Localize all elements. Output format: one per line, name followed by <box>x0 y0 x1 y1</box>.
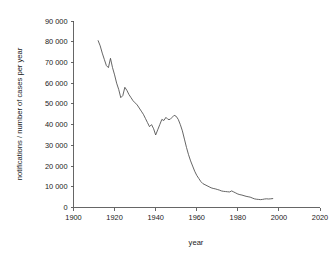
x-tick-label: 1920 <box>106 213 122 222</box>
line-chart: 010 00020 00030 00040 00050 00060 00070 … <box>0 0 333 259</box>
y-axis-ticks: 010 00020 00030 00040 00050 00060 00070 … <box>45 17 74 213</box>
y-tick-label: 0 <box>63 203 67 212</box>
x-tick-label: 1900 <box>65 213 81 222</box>
y-tick-label: 80 000 <box>45 37 68 46</box>
y-axis-title: notifications / number of cases per year <box>15 47 24 180</box>
data-series-line <box>98 41 273 200</box>
x-tick-label: 1940 <box>147 213 163 222</box>
x-tick-label: 1960 <box>189 213 205 222</box>
y-tick-label: 90 000 <box>45 17 68 26</box>
y-tick-label: 20 000 <box>45 162 68 171</box>
x-axis-ticks: 1900192019401960198020002020 <box>65 208 328 223</box>
x-tick-label: 2020 <box>312 213 328 222</box>
x-axis-title: year <box>189 238 204 247</box>
x-tick-label: 1980 <box>230 213 246 222</box>
y-tick-label: 10 000 <box>45 182 68 191</box>
y-tick-label: 60 000 <box>45 79 68 88</box>
x-tick-label: 2000 <box>271 213 287 222</box>
chart-figure: 010 00020 00030 00040 00050 00060 00070 … <box>0 0 333 259</box>
y-tick-label: 40 000 <box>45 120 68 129</box>
y-tick-label: 70 000 <box>45 58 68 67</box>
y-tick-label: 30 000 <box>45 141 68 150</box>
y-tick-label: 50 000 <box>45 99 68 108</box>
